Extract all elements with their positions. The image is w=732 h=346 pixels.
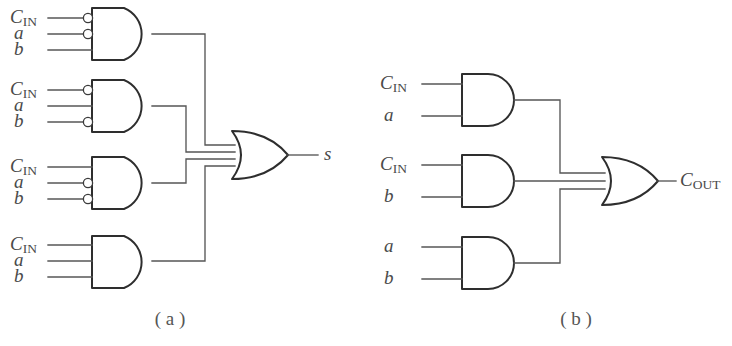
net-b1-to-or	[514, 100, 605, 173]
input-label-b2-0: CIN	[380, 153, 407, 176]
output-label-s: s	[324, 143, 331, 164]
logic-diagram-figure: CIN a b CIN a b	[0, 0, 732, 346]
or-gate-a[interactable]: s	[232, 131, 331, 179]
and-gate-a4[interactable]: CIN a b	[10, 233, 142, 288]
caption-a: ( a )	[155, 308, 186, 330]
input-label-a3-2: b	[14, 187, 24, 208]
input-label-b2-1: b	[384, 185, 394, 206]
inversion-bubble-a1-0	[83, 13, 92, 22]
net-b3-to-or	[514, 189, 605, 263]
panel-a: CIN a b CIN a b	[10, 6, 331, 330]
inversion-bubble-a2-0	[83, 85, 92, 94]
input-label-b3-0: a	[384, 235, 394, 256]
input-label-a4-2: b	[14, 265, 24, 286]
input-label-a2-2: b	[14, 110, 24, 131]
and-gate-b1[interactable]: CIN a	[380, 72, 514, 126]
and-gate-b2[interactable]: CIN b	[380, 153, 514, 207]
net-a1-to-or	[152, 34, 235, 145]
input-label-b1-1: a	[384, 104, 394, 125]
and-gate-a1[interactable]: CIN a b	[10, 6, 142, 60]
net-a4-to-or	[152, 166, 235, 261]
caption-b: ( b )	[560, 308, 592, 330]
input-label-a1-2: b	[14, 38, 24, 59]
inversion-bubble-a3-1	[83, 178, 92, 187]
or-gate-b[interactable]: COUT	[602, 157, 721, 205]
input-label-b1-0: CIN	[380, 72, 407, 95]
inversion-bubble-a3-2	[83, 194, 92, 203]
and-gate-a3[interactable]: CIN a b	[10, 155, 142, 209]
panel-b: CIN a CIN b a b	[380, 72, 721, 330]
inversion-bubble-a2-2	[83, 117, 92, 126]
inversion-bubble-a1-1	[83, 29, 92, 38]
output-label-cout: COUT	[680, 169, 721, 192]
net-a3-to-or	[152, 159, 235, 183]
circuit-canvas: CIN a b CIN a b	[0, 0, 732, 346]
input-label-b3-1: b	[384, 267, 394, 288]
and-gate-a2[interactable]: CIN a b	[10, 78, 142, 132]
and-gate-b3[interactable]: a b	[384, 235, 514, 289]
